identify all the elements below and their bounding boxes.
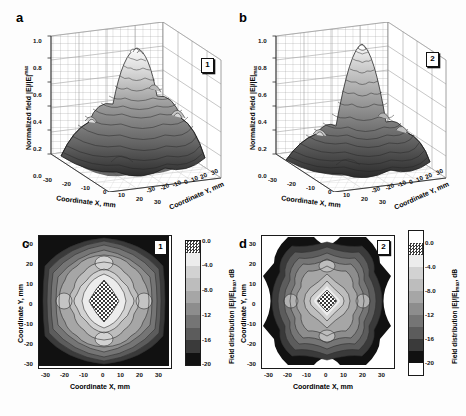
panel-c-cbar-seg-0 [186,241,200,253]
panel-d-cbar-seg-top [409,231,423,243]
panel-a-ztick-3: 0.6 [33,91,42,98]
panel-d-cbar-seg-4 [409,291,423,303]
panel-b-z-axis-text: Normalized field |E|/|E| [249,75,256,150]
panel-b-xtick-5: 20 [361,195,368,202]
panel-d-cbar-seg-9 [409,351,423,363]
panel-d-cbar-seg-0 [409,243,423,255]
panel-b-tick-marks [273,36,277,154]
panel-c-xtick-3: 0 [101,371,104,378]
panel-b-x-axis-title: Coordinate X, mm [281,194,341,208]
panel-c-ytick-6: 30 [26,240,33,247]
panel-d-cbtick-5: -20 [425,359,434,366]
panel-d-ytick-5: 20 [249,260,256,267]
panel-c-cbar-seg-1 [186,253,200,265]
panel-a-z-axis-sup: max [24,66,29,75]
panel-d-xtick-5: 20 [359,371,366,378]
panel-b-badge: 2 [426,52,439,67]
panel-d-cbtick-1: -4.0 [425,263,436,270]
panel-a-xtick-1: -20 [62,180,71,187]
panel-c-xtick-0: -30 [41,371,50,378]
panel-d-cbtick-4: -16 [425,335,434,342]
panel-c-cbtick-4: -16 [202,336,211,343]
panel-c-xtick-5: 20 [136,371,143,378]
panel-a-ztick-4: 0.8 [33,64,42,71]
panel-d-cbar-seg-1 [409,255,423,267]
panel-c-cbtick-5: -20 [202,360,211,367]
panel-c-cbar-seg-8 [186,340,200,352]
panel-d-cbar-seg-bottom [409,363,423,375]
panel-d-cbar-seg-3 [409,279,423,291]
panel-c-cbar-seg-3 [186,278,200,290]
panel-d-cbar-seg-7 [409,327,423,339]
panel-b-ztick-1: 0.2 [258,145,267,152]
panel-b: b Normalized field |E|/|E|max 0.0 0.2 0.… [233,0,466,208]
panel-b-xtick-6: 30 [379,198,386,205]
panel-a-xtick-3: 0 [103,188,106,195]
panel-d-colorbar-title: Field distribution |E|/|E|max, dB [451,269,460,364]
panel-d-cbar-seg-6 [409,315,423,327]
panel-c-colorbar [185,240,201,366]
panel-c-ytick-1: -20 [24,340,33,347]
panel-b-ztick-0: 0.0 [258,172,267,179]
panel-d-cbar-seg-5 [409,303,423,315]
panel-a-ztick-5: 1.0 [33,37,42,44]
panel-d-ytick-4: 10 [249,280,256,287]
panel-a-tick-marks [48,36,52,154]
panel-b-xtick-3: 0 [328,188,331,195]
panel-d-xtick-6: 30 [378,371,385,378]
panel-a-xtick-0: -30 [43,176,52,183]
panel-b-xtick-2: -10 [306,184,315,191]
panel-b-z-axis-title: Normalized field |E|/|E|max [249,66,258,150]
panel-c-cbar-seg-7 [186,328,200,340]
panel-d-badge: 2 [377,240,390,255]
panel-c-cbar-seg-2 [186,266,200,278]
panel-b-xtick-1: -20 [287,180,296,187]
panel-a-ztick-0: 0.0 [33,172,42,179]
panel-a-xtick-6: 30 [154,198,161,205]
panel-d-xtick-3: 0 [324,371,327,378]
panel-d-cbtick-3: -12 [425,311,434,318]
panel-a-xtick-2: -10 [81,184,90,191]
panel-a-z-axis-text: Normalized field |E|/|E| [25,75,32,150]
panel-d: d Coordinate Y, mm 30 20 10 0 -10 -20 -3… [233,208,466,416]
panel-c-x-axis-title: Coordinate X, mm [70,383,130,390]
panel-d-cbtick-2: -8.0 [425,287,436,294]
panel-b-letter: b [239,10,247,25]
panel-a-xtick-5: 20 [136,195,143,202]
panel-d-xtick-4: 10 [340,371,347,378]
panel-a-badge: 1 [201,58,214,73]
panel-b-ztick-3: 0.6 [258,91,267,98]
panel-d-cbar-title-tail: , dB [451,269,458,281]
panel-a-z-axis-title: Normalized field |E|/|E|max [24,66,32,150]
panel-c-xtick-2: -10 [79,371,88,378]
panel-d-cbar-seg-8 [409,339,423,351]
panel-a: a Normalized field |E|/|E|max 0.0 0.2 0.… [0,0,233,208]
panel-d-letter: d [239,236,247,251]
panel-c: c Coordinate Y, mm 30 20 10 0 -10 -20 -3… [0,208,233,416]
panel-a-xtick-4: 10 [118,191,125,198]
panel-b-xtick-0: -30 [268,176,277,183]
panel-b-ztick-4: 0.8 [258,64,267,71]
panel-c-ytick-2: -10 [24,320,33,327]
panel-a-letter: a [16,10,23,25]
panel-b-xtick-4: 10 [343,191,350,198]
panel-a-x-axis-title: Coordinate X, mm [56,194,116,208]
panel-c-cbtick-1: -4.0 [202,261,213,268]
panel-d-xtick-1: -20 [283,371,292,378]
panel-d-xtick-0: -30 [264,371,273,378]
panel-d-cbar-title-text: Field distribution |E|/|E| [451,291,458,364]
panel-c-ytick-4: 10 [26,280,33,287]
panel-c-cbar-seg-9 [186,353,200,365]
panel-c-xtick-4: 10 [117,371,124,378]
panel-c-xtick-6: 30 [155,371,162,378]
panel-d-colorbar [408,230,424,376]
panel-d-ytick-0: -30 [247,360,256,367]
panel-d-cbar-seg-2 [409,267,423,279]
panel-d-y-axis-title: Coordinate Y, mm [240,284,247,343]
panel-c-badge: 1 [154,240,167,255]
panel-c-cbar-seg-6 [186,315,200,327]
panel-d-cbtick-0: 0.0 [425,239,434,246]
panel-a-surface [45,22,225,192]
panel-d-xtick-2: -10 [302,371,311,378]
panel-c-cbtick-0: 0.0 [202,237,211,244]
